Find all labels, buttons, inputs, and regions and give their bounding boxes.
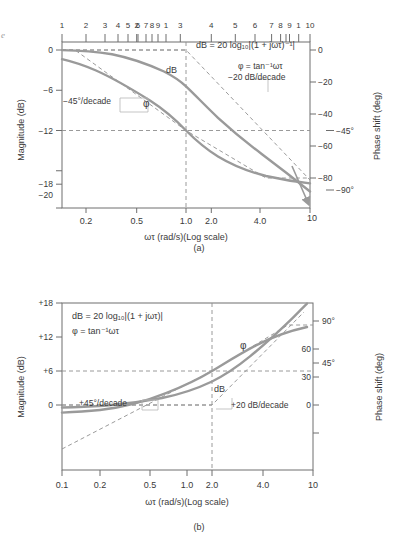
panel-b-bottom-tick-labels: 0.1 0.2 0.5 1.0 2.0 4.0 10: [56, 480, 318, 490]
tick-label: 0: [48, 400, 53, 410]
panel-b-ylabel: Magnitude (dB): [16, 356, 26, 418]
panel-a-right-tick-labels: 0 −20 −40 −60 −80: [318, 45, 333, 183]
panel-b-phase-slope-label: +45°/decade: [79, 398, 127, 408]
panel-b: +18 +12 +6 0 Magnitude (dB) 90° 60 45° 3…: [16, 298, 384, 507]
tick-label: 1.0: [181, 480, 194, 490]
panel-b-phi-curve-label: φ: [240, 340, 247, 351]
panel-b-magnitude-equation: dB = 20 log₁₀|(1 + jωτ)|: [72, 311, 163, 321]
tick-label: 10: [308, 480, 318, 490]
tick-label: −12: [39, 126, 54, 136]
tick-label: 4.0: [254, 216, 267, 226]
tick-label: −60: [318, 141, 333, 151]
tick-label: 10: [306, 21, 315, 30]
tick-label: 30: [302, 372, 312, 382]
tick-label: −40: [318, 109, 333, 119]
tick-label: 3: [178, 21, 183, 30]
panel-b-phi-asymptote: [62, 325, 313, 449]
panel-a-phase-45-label: −45°: [336, 126, 354, 136]
tick-label: 3: [103, 21, 108, 30]
panel-a-phase-equation: φ = tan⁻¹ωτ: [238, 61, 283, 71]
tick-label: 60: [302, 344, 312, 354]
panel-b-left-axis: [56, 303, 62, 405]
tick-label: 0.1: [56, 480, 69, 490]
tick-label: 7: [269, 21, 274, 30]
page-edge-fragment: e: [1, 30, 5, 40]
panel-b-mag-slope-box: [216, 398, 232, 409]
panel-a-phase-90-label: −90°: [336, 185, 354, 195]
tick-label: −80: [318, 173, 333, 183]
tick-label: −18: [39, 179, 54, 189]
panel-a-right-axis: [310, 50, 316, 178]
panel-b-right-axis: [313, 321, 319, 433]
panel-a-left-axis: [56, 50, 62, 208]
panel-a-caption: (a): [0, 243, 398, 253]
panel-b-db-curve-label: dB: [214, 384, 225, 394]
tick-label: 90°: [322, 316, 335, 326]
tick-label: 6: [253, 21, 258, 30]
tick-label: 0: [48, 45, 53, 55]
tick-label: 1: [164, 21, 169, 30]
panel-a-xlabel: ωτ (rad/s)(Log scale): [144, 232, 227, 242]
tick-label: 4.0: [257, 480, 270, 490]
panel-a-bottom-axis: [86, 208, 310, 213]
panel-b-caption: (b): [0, 522, 398, 532]
panel-a-phi-curve-label: φ: [143, 98, 150, 109]
panel-a-phase-slope-label: −45°/decade: [63, 96, 111, 106]
panel-b-xlabel: ωτ (rad/s)(Log scale): [145, 497, 228, 507]
panel-b-bottom-axis: [62, 470, 313, 476]
tick-label: 8: [278, 21, 283, 30]
panel-a-top-tick-labels: 1 2 3 4 5 6 7 8 9 1: [60, 21, 302, 30]
tick-label: 0.2: [94, 480, 107, 490]
tick-label: −20: [39, 190, 54, 200]
bode-plots-svg: 1 2 3 4 5 6 7 8 9 1 2 3 4 5 6 7 8 9: [0, 0, 398, 552]
tick-label: 10: [307, 213, 317, 223]
tick-label: +12: [39, 332, 54, 342]
tick-label: 7: [144, 21, 149, 30]
tick-label: 2.0: [205, 216, 218, 226]
panel-a-magnitude-equation: dB = 20 log₁₀|(1 + jωτ)⁻¹|: [196, 40, 295, 50]
tick-label: 0: [318, 45, 323, 55]
panel-a-bottom-tick-labels: 0.2 0.5 1.0 2.0 4.0 10: [80, 213, 317, 226]
tick-label: 4: [116, 21, 121, 30]
tick-label: −20: [318, 77, 333, 87]
tick-label: 45°: [322, 358, 335, 368]
panel-a-asymptote-arrow: [292, 166, 309, 205]
tick-label: −6: [43, 85, 53, 95]
tick-label: 0.2: [80, 216, 93, 226]
tick-label: 9: [287, 21, 292, 30]
tick-label: 4: [209, 21, 214, 30]
tick-label: 9: [156, 21, 161, 30]
panel-b-left-tick-labels: +18 +12 +6 0: [39, 298, 54, 410]
panel-a-db-curve-label: dB: [166, 65, 177, 75]
panel-b-y2label: Phase shift (deg): [374, 353, 384, 421]
panel-a-ylabel: Magnitude (dB): [16, 99, 26, 161]
panel-a-y2label: Phase shift (deg): [372, 92, 382, 160]
panel-b-phase-equation: φ = tan⁻¹ωτ: [72, 326, 120, 336]
tick-label: 6: [136, 21, 141, 30]
tick-label: 8: [150, 21, 155, 30]
tick-label: 0.5: [130, 216, 143, 226]
panel-a: 1 2 3 4 5 6 7 8 9 1 2 3 4 5 6 7 8 9: [16, 21, 382, 242]
panel-a-mag-slope-label: −20 dB/decade: [228, 72, 286, 82]
panel-a-left-tick-labels: 0 −6 −12 −18 −20: [39, 45, 54, 200]
bode-plot-figure: e: [0, 0, 398, 552]
tick-label: 2: [84, 21, 89, 30]
tick-label: +6: [43, 366, 53, 376]
tick-label: +18: [39, 298, 54, 308]
tick-label: 0.5: [144, 480, 157, 490]
tick-label: 1.0: [180, 216, 193, 226]
tick-label: 2.0: [206, 480, 219, 490]
tick-label: 1: [296, 21, 301, 30]
tick-label: 5: [233, 21, 238, 30]
tick-label: 0: [306, 400, 311, 410]
panel-b-mag-slope-label: +20 dB/decade: [231, 400, 289, 410]
tick-label: 1: [60, 21, 65, 30]
tick-label: 5: [126, 21, 131, 30]
